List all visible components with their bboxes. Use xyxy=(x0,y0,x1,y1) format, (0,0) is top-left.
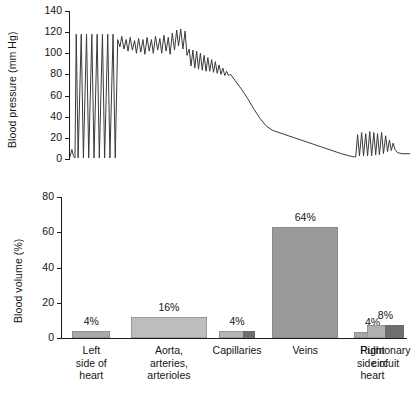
volume-tick-label: 80 xyxy=(20,190,54,202)
volume-bar-value-label: 4% xyxy=(207,315,267,327)
volume-category-line: arteries, xyxy=(131,357,207,370)
volume-bar-value-label: 64% xyxy=(275,211,335,223)
volume-bar xyxy=(367,325,403,338)
volume-category-label: Veins xyxy=(267,344,343,357)
volume-category-line: Veins xyxy=(267,344,343,357)
volume-category-label: Leftside ofheart xyxy=(53,344,129,382)
volume-category-line: heart xyxy=(335,369,411,382)
blood-pressure-chart: Blood pressure (mm Hg) 02040608010012014… xyxy=(0,0,417,180)
pressure-plot-area xyxy=(70,11,410,159)
volume-category-line: side of xyxy=(53,357,129,370)
volume-tick-label: 0 xyxy=(20,331,54,343)
blood-volume-chart: Blood volume (%) 020406080 4%16%4%64%4%8… xyxy=(0,185,417,395)
pressure-tick-label: 20 xyxy=(28,131,62,143)
volume-tick-label: 60 xyxy=(20,225,54,237)
volume-category-label: Capillaries xyxy=(199,344,275,357)
volume-category-label: Pulmonarycircuit xyxy=(347,344,417,369)
volume-category-line: Capillaries xyxy=(199,344,275,357)
pressure-tick-label: 140 xyxy=(28,4,62,16)
volume-tick-label: 20 xyxy=(20,296,54,308)
volume-category-line: Aorta, xyxy=(131,344,207,357)
pressure-trace-svg xyxy=(70,11,410,159)
pressure-tick-label: 100 xyxy=(28,46,62,58)
volume-category-line: arterioles xyxy=(131,369,207,382)
volume-bar xyxy=(219,331,255,338)
volume-tick-label: 40 xyxy=(20,261,54,273)
volume-bar-value-label: 4% xyxy=(61,315,121,327)
pressure-tick-label: 120 xyxy=(28,25,62,37)
volume-x-axis-line xyxy=(61,338,407,339)
pressure-trace-line xyxy=(70,29,410,158)
pressure-tick-label: 60 xyxy=(28,89,62,101)
volume-category-line: circuit xyxy=(347,357,417,370)
volume-category-line: Pulmonary xyxy=(347,344,417,357)
volume-bar xyxy=(72,331,110,338)
volume-bar-accent-segment xyxy=(385,325,404,338)
volume-plot-area: 4%16%4%64%4%8% xyxy=(62,197,407,338)
volume-category-line: Left xyxy=(53,344,129,357)
volume-category-label: Aorta,arteries,arterioles xyxy=(131,344,207,382)
volume-bar xyxy=(272,227,338,338)
volume-category-line: heart xyxy=(53,369,129,382)
volume-bar-value-label: 8% xyxy=(355,309,415,321)
blood-pressure-and-volume-figure: Blood pressure (mm Hg) 02040608010012014… xyxy=(0,0,417,395)
pressure-tick-label: 0 xyxy=(28,152,62,164)
volume-bar xyxy=(131,317,207,338)
volume-bar-accent-segment xyxy=(243,331,255,338)
pressure-tick-mark xyxy=(65,159,70,160)
pressure-tick-label: 80 xyxy=(28,67,62,79)
volume-bar-value-label: 16% xyxy=(139,301,199,313)
pressure-tick-label: 40 xyxy=(28,110,62,122)
pressure-y-axis-label: Blood pressure (mm Hg) xyxy=(6,18,18,148)
